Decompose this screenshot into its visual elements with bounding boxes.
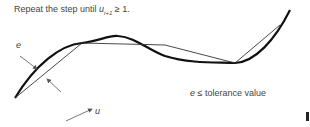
curve — [15, 10, 290, 98]
u-arrow — [66, 109, 92, 121]
e-arrow-lower — [47, 79, 61, 92]
tolerance-condition: ≤ tolerance value — [195, 88, 266, 98]
e-arrow-upper — [20, 56, 37, 69]
u-label: u — [95, 106, 100, 116]
tolerance-text: e ≤ tolerance value — [190, 88, 266, 98]
curve-diagram — [0, 0, 310, 127]
edge-mark — [306, 112, 309, 121]
e-label: e — [16, 40, 21, 50]
